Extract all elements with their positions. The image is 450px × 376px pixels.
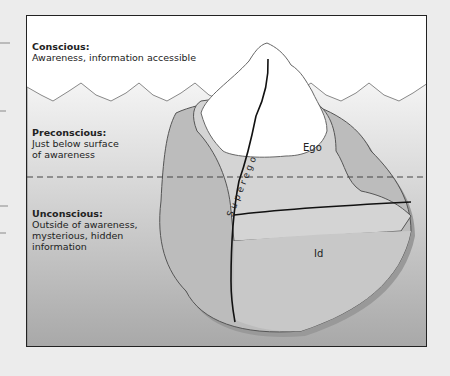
preconscious-desc-1: Just below surface bbox=[32, 138, 119, 149]
page-edge-mark bbox=[0, 205, 8, 207]
page-edge-mark bbox=[0, 232, 6, 234]
ego-label: Ego bbox=[303, 142, 322, 153]
unconscious-desc-1: Outside of awareness, bbox=[32, 219, 138, 230]
id-label: Id bbox=[314, 248, 323, 259]
iceberg-illustration bbox=[27, 16, 427, 347]
preconscious-desc-2: of awareness bbox=[32, 149, 95, 160]
conscious-label: Conscious: Awareness, information access… bbox=[32, 41, 196, 63]
conscious-title: Conscious: bbox=[32, 41, 196, 52]
unconscious-label: Unconscious: Outside of awareness, myste… bbox=[32, 208, 138, 252]
unconscious-desc-2: mysterious, hidden bbox=[32, 230, 123, 241]
page-edge-mark bbox=[0, 110, 6, 112]
unconscious-title: Unconscious: bbox=[32, 208, 138, 219]
iceberg-diagram: Conscious: Awareness, information access… bbox=[26, 15, 427, 347]
unconscious-desc-3: information bbox=[32, 241, 87, 252]
preconscious-title: Preconscious: bbox=[32, 127, 119, 138]
preconscious-label: Preconscious: Just below surface of awar… bbox=[32, 127, 119, 160]
conscious-desc: Awareness, information accessible bbox=[32, 52, 196, 63]
page-edge-mark bbox=[0, 42, 10, 44]
